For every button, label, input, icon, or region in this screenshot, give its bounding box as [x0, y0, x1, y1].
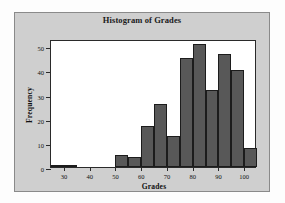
x-axis-tick-label: 60 [138, 173, 145, 180]
x-axis-tick [244, 167, 245, 171]
y-axis-tick-label: 10 [38, 141, 45, 148]
histogram-bar [128, 157, 141, 167]
y-axis-tick-label: 20 [38, 117, 45, 124]
y-axis-tick-label: 50 [38, 45, 45, 52]
x-axis-tick-label: 50 [112, 173, 119, 180]
histogram-bar [231, 70, 244, 167]
histogram-bar [244, 148, 257, 167]
plot-area: Frequency 01020304050 30405060708090100 … [50, 40, 256, 168]
histogram-bar [51, 165, 64, 167]
x-axis-tick-label: 40 [86, 173, 93, 180]
y-axis-tick-label: 0 [41, 166, 44, 173]
histogram-bar [115, 155, 128, 167]
histogram-figure: Histogram of Grades Frequency 0102030405… [0, 0, 285, 203]
y-axis-tick-label: 40 [38, 69, 45, 76]
histogram-bar [167, 136, 180, 167]
x-axis-tick [167, 167, 168, 171]
x-axis-tick-label: 70 [164, 173, 171, 180]
x-axis-tick [115, 167, 116, 171]
x-axis-tick [141, 167, 142, 171]
histogram-bar [218, 54, 231, 168]
x-axis-tick [193, 167, 194, 171]
x-axis-tick [64, 167, 65, 171]
bar-series [51, 41, 255, 167]
y-axis-tick [46, 169, 51, 170]
x-axis-tick [90, 167, 91, 171]
x-axis-label: Grades [51, 182, 257, 191]
histogram-bar [64, 165, 77, 167]
histogram-bar [206, 90, 219, 167]
chart-title: Histogram of Grades [14, 15, 270, 25]
y-axis-tick-label: 30 [38, 93, 45, 100]
histogram-bar [154, 104, 167, 167]
histogram-bar [141, 126, 154, 167]
x-axis-tick-label: 30 [61, 173, 68, 180]
x-axis-tick-label: 80 [189, 173, 196, 180]
y-axis-label: Frequency [25, 41, 37, 169]
histogram-bar [180, 58, 193, 167]
x-axis-tick [218, 167, 219, 171]
x-axis-tick-label: 90 [215, 173, 222, 180]
x-axis-tick-label: 100 [239, 173, 249, 180]
histogram-bar [193, 44, 206, 167]
